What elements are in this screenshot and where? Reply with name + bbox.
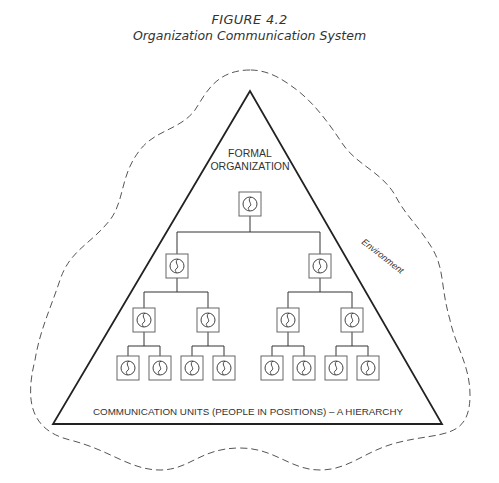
person-in-position-icon — [277, 308, 299, 332]
person-in-position-icon — [261, 356, 283, 380]
person-in-position-icon — [149, 356, 171, 380]
person-in-position-icon — [239, 192, 261, 216]
organization-diagram: FORMAL ORGANIZATION Environment COMMUNIC… — [0, 0, 499, 483]
person-in-position-icon — [133, 308, 155, 332]
person-in-position-icon — [117, 356, 139, 380]
hierarchy-level-1 — [239, 192, 261, 216]
person-in-position-icon — [181, 356, 203, 380]
hierarchy-level-2 — [166, 254, 331, 278]
person-in-position-icon — [197, 308, 219, 332]
person-in-position-icon — [325, 356, 347, 380]
triangle-label-line2: ORGANIZATION — [210, 160, 289, 172]
base-label: COMMUNICATION UNITS (PEOPLE IN POSITIONS… — [93, 406, 404, 417]
person-in-position-icon — [293, 356, 315, 380]
hierarchy-level-3 — [133, 308, 363, 332]
person-in-position-icon — [357, 356, 379, 380]
person-in-position-icon — [213, 356, 235, 380]
person-in-position-icon — [166, 254, 188, 278]
hierarchy-level-4 — [117, 356, 379, 380]
environment-label: Environment — [360, 237, 406, 276]
triangle-label-line1: FORMAL — [228, 147, 272, 159]
person-in-position-icon — [309, 254, 331, 278]
person-in-position-icon — [341, 308, 363, 332]
